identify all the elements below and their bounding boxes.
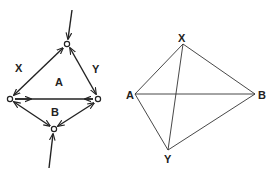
diagram-canvas: X Y A B X A B Y — [0, 0, 273, 175]
left-diagram: X Y A B — [7, 10, 100, 168]
node-top — [64, 41, 69, 46]
input-arrow-top — [68, 10, 72, 39]
label-y: Y — [92, 63, 100, 75]
input-arrow-bottom — [49, 134, 53, 168]
edge-bottom-right — [58, 103, 94, 126]
vertex-label-x: X — [178, 32, 186, 44]
edge-x-a — [135, 44, 183, 94]
edge-x-y — [168, 44, 183, 150]
edge-y-b — [168, 94, 255, 150]
label-b: B — [51, 106, 59, 118]
node-left — [7, 96, 12, 101]
vertex-label-a: A — [126, 89, 134, 101]
label-a: A — [55, 76, 63, 88]
vertex-label-b: B — [258, 89, 266, 101]
right-diagram: X A B Y — [126, 32, 266, 165]
edge-x-b — [183, 44, 255, 94]
label-x: X — [15, 62, 23, 74]
vertex-label-y: Y — [164, 153, 172, 165]
node-right — [95, 96, 100, 101]
node-bottom — [51, 126, 56, 131]
edge-left-bottom — [14, 102, 50, 126]
edge-a-y — [135, 94, 168, 150]
